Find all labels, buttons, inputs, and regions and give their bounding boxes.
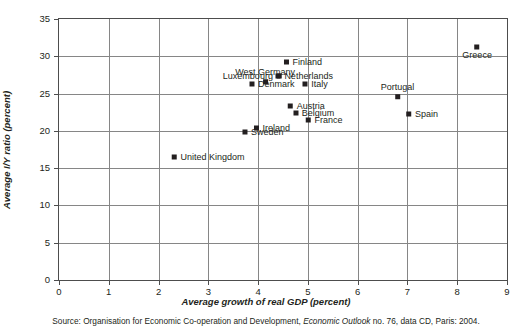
data-point: Finland <box>284 58 322 67</box>
data-point-label: Italy <box>311 79 328 88</box>
scatter-chart-figure: Average I/Y ratio (percent) 012345678905… <box>0 0 532 336</box>
data-point-marker <box>243 129 248 134</box>
y-axis-tick-label: 5 <box>45 238 50 248</box>
gridline-vertical <box>358 19 359 280</box>
data-point-marker <box>250 81 255 86</box>
gridline-vertical <box>457 19 458 280</box>
y-axis-tick <box>54 131 59 132</box>
source-publication: Economic Outlook <box>303 316 370 326</box>
y-axis-title: Average I/Y ratio (percent) <box>1 91 12 209</box>
data-point-label: Portugal <box>381 84 415 93</box>
data-point: Sweden <box>243 127 284 136</box>
source-suffix: no. 76, data CD, Paris: 2004. <box>370 316 479 326</box>
data-point-marker <box>293 110 298 115</box>
y-axis-tick <box>54 205 59 206</box>
data-point: France <box>306 116 343 125</box>
x-axis-tick <box>407 280 408 285</box>
y-axis-tick-label: 0 <box>45 275 50 285</box>
x-axis-tick <box>109 280 110 285</box>
y-axis-tick <box>54 56 59 57</box>
x-axis-tick <box>208 280 209 285</box>
data-point-label: Greece <box>462 51 492 60</box>
data-point: United Kingdom <box>172 152 245 161</box>
plot-area: 012345678905101520253035LuxembourgWest G… <box>58 18 508 281</box>
data-point-label: Spain <box>415 109 438 118</box>
y-axis-tick <box>54 19 59 20</box>
data-point-label: Sweden <box>251 127 284 136</box>
data-point: Greece <box>462 44 492 61</box>
gridline-vertical <box>109 19 110 280</box>
data-point-label: United Kingdom <box>181 152 245 161</box>
y-axis-tick-label: 15 <box>39 163 50 173</box>
data-point-marker <box>276 74 281 79</box>
data-point-marker <box>475 44 480 49</box>
data-point-marker <box>407 111 412 116</box>
y-axis-tick <box>54 94 59 95</box>
gridline-vertical <box>258 19 259 280</box>
gridline-vertical <box>159 19 160 280</box>
gridline-vertical <box>407 19 408 280</box>
y-axis-tick <box>54 280 59 281</box>
y-axis-tick-label: 10 <box>39 201 50 211</box>
data-point-marker <box>303 81 308 86</box>
data-point-marker <box>172 154 177 159</box>
data-point: Italy <box>303 79 328 88</box>
data-point-label: France <box>315 116 343 125</box>
gridline-horizontal <box>59 94 507 95</box>
gridline-horizontal <box>59 243 507 244</box>
data-point-marker <box>395 94 400 99</box>
data-point-marker <box>284 60 289 65</box>
y-axis-tick-label: 35 <box>39 14 50 24</box>
x-axis-tick <box>457 280 458 285</box>
x-axis-tick <box>159 280 160 285</box>
x-axis-tick <box>308 280 309 285</box>
data-point-label: Finland <box>292 58 322 67</box>
gridline-vertical <box>208 19 209 280</box>
y-axis-tick-label: 30 <box>39 52 50 62</box>
y-axis-tick <box>54 168 59 169</box>
x-axis-tick <box>59 280 60 285</box>
y-axis-tick-label: 25 <box>39 89 50 99</box>
data-point: Spain <box>407 109 439 118</box>
x-axis-tick <box>358 280 359 285</box>
data-point: Portugal <box>381 84 415 100</box>
x-axis-tick <box>258 280 259 285</box>
x-axis-title: Average growth of real GDP (percent) <box>0 296 532 307</box>
y-axis-tick-label: 20 <box>39 126 50 136</box>
source-note: Source: Organisation for Economic Co-ope… <box>0 316 532 326</box>
gridline-horizontal <box>59 168 507 169</box>
data-point-marker <box>306 118 311 123</box>
y-axis-tick <box>54 243 59 244</box>
source-prefix: Source: Organisation for Economic Co-ope… <box>52 316 303 326</box>
gridline-horizontal <box>59 205 507 206</box>
x-axis-tick <box>507 280 508 285</box>
